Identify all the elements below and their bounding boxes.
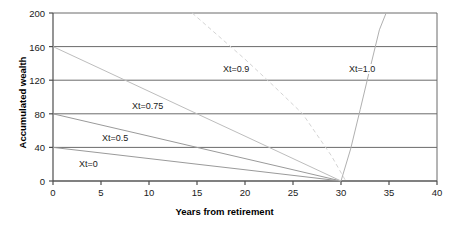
y-tick-label: 200 xyxy=(16,8,45,19)
x-tick-label: 20 xyxy=(240,187,251,198)
x-tick-label: 15 xyxy=(192,187,203,198)
x-tick-label: 0 xyxy=(50,187,55,198)
series-annotation: Xt=1.0 xyxy=(348,64,376,74)
x-tick-label: 10 xyxy=(144,187,155,198)
plot-area xyxy=(0,0,449,225)
x-tick-label: 25 xyxy=(288,187,299,198)
series-line-xt-0-9 xyxy=(192,13,346,181)
x-tick-label: 5 xyxy=(98,187,103,198)
y-tick-label: 120 xyxy=(16,75,45,86)
y-tick-label: 80 xyxy=(16,108,45,119)
series-line-xt-1-0 xyxy=(341,13,386,181)
x-tick-label: 40 xyxy=(432,187,443,198)
y-tick-label: 40 xyxy=(16,142,45,153)
series-annotation: Xt=0.9 xyxy=(222,64,250,74)
x-tick-label: 35 xyxy=(384,187,395,198)
series-annotation: Xt=0.5 xyxy=(101,133,129,143)
y-tick-label: 0 xyxy=(16,176,45,187)
y-tick-label: 160 xyxy=(16,41,45,52)
series-annotation: Xt=0.75 xyxy=(131,101,164,111)
x-axis-title: Years from retirement xyxy=(0,206,449,217)
chart-figure: Accumulated wealth Years from retirement… xyxy=(0,0,449,225)
series-annotation: Xt=0 xyxy=(78,159,99,169)
x-tick-label: 30 xyxy=(336,187,347,198)
